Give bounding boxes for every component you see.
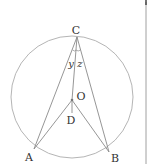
segment-ca [34,37,77,149]
label-b: B [111,152,119,164]
label-c: C [72,24,80,37]
label-d: D [67,114,76,127]
angle-arc-z [76,50,81,51]
angle-label-z: z [76,58,83,69]
angle-arc-y [73,50,77,51]
angle-label-y: y [67,58,74,69]
geometry-diagram: C O D A B y z [0,0,151,164]
label-a: A [24,151,34,164]
label-o: O [76,90,85,103]
segment-ob [72,100,109,152]
diagram-canvas: C O D A B y z [0,0,151,164]
center-point-o [71,99,74,102]
